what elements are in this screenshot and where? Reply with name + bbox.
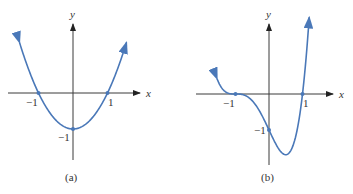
x-axis-label-b: x (338, 88, 344, 100)
point-b-yneg1 (267, 128, 271, 132)
x-axis-label-a: x (145, 87, 151, 99)
point-a-xneg1 (37, 91, 41, 95)
panel-a: x y −1 1 −1 (a) (8, 8, 151, 184)
y-axis-label-b: y (265, 8, 271, 20)
panel-label-a: (a) (65, 171, 78, 184)
tick-label-a-x1: 1 (108, 96, 114, 108)
panel-b: x y −1 1 −1 (b) (196, 8, 344, 184)
tick-label-b-x1: 1 (303, 97, 309, 109)
point-a-x1 (106, 91, 110, 95)
point-b-xneg1 (234, 92, 238, 96)
panel-label-b: (b) (261, 171, 274, 184)
point-b-x1 (301, 92, 305, 96)
tick-label-a-yneg1: −1 (58, 131, 70, 143)
tick-label-b-xneg1: −1 (223, 97, 235, 109)
figure: x y −1 1 −1 (a) x y −1 1 −1 (b) (0, 0, 353, 194)
y-axis-label-a: y (69, 8, 75, 20)
tick-label-a-xneg1: −1 (26, 96, 38, 108)
tick-label-b-yneg1: −1 (254, 124, 266, 136)
point-a-yneg1 (71, 127, 75, 131)
